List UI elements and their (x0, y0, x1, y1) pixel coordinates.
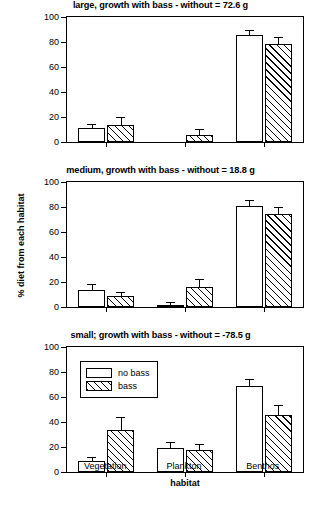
bar-plankton-bass (186, 135, 213, 143)
x-axis-tick (264, 307, 265, 312)
legend-label-bass: bass (118, 382, 137, 391)
bar-group-plankton (146, 182, 225, 307)
bars-large (67, 17, 303, 142)
y-axis-tick-label: 20 (29, 443, 59, 452)
error-bar (170, 443, 171, 448)
y-axis-tick (61, 142, 67, 143)
x-axis-title: habitat (66, 478, 304, 488)
x-axis-tick (106, 472, 107, 477)
x-axis-tick (185, 307, 186, 312)
x-axis-label-vegetation: Vegetation (60, 461, 150, 471)
error-bar-cap (245, 379, 254, 380)
error-bar (92, 125, 93, 129)
chart-panel-small: small; growth with bass - without = -78.… (0, 330, 321, 500)
y-axis-tick (61, 282, 67, 283)
x-axis-tick (185, 142, 186, 147)
chart-panel-large: large, growth with bass - without = 72.6… (0, 0, 321, 170)
y-axis-tick (61, 42, 67, 43)
y-axis-tick (61, 17, 67, 18)
error-bar (121, 293, 122, 296)
plot-area-small: no bass bass 020406080100 (66, 346, 304, 473)
figure-diet-composition: large, growth with bass - without = 72.6… (0, 0, 321, 511)
bar-group-vegetation (67, 17, 146, 142)
y-axis-tick-label: 80 (29, 368, 59, 377)
y-axis-tick (61, 182, 67, 183)
y-axis-tick-label: 100 (29, 13, 59, 22)
error-bar-cap (274, 207, 283, 208)
y-axis-tick-label: 0 (29, 468, 59, 477)
plot-area-medium: % diet from each habitat 020406080100 (66, 181, 304, 308)
bars-medium (67, 182, 303, 307)
error-bar-cap (116, 292, 125, 293)
x-axis-tick (106, 307, 107, 312)
y-axis-tick (61, 67, 67, 68)
error-bar (249, 380, 250, 386)
error-bar-cap (116, 417, 125, 418)
x-axis-tick (264, 142, 265, 147)
error-bar-cap (166, 442, 175, 443)
x-axis-label-benthos: Benthos (218, 461, 308, 471)
error-bar-cap (195, 279, 204, 280)
error-bar-cap (87, 124, 96, 125)
error-bar-cap (195, 129, 204, 130)
y-axis-tick (61, 472, 67, 473)
bar-vegetation-bass (107, 125, 134, 143)
panel-title-medium: medium, growth with bass - without = 18.… (0, 165, 321, 175)
legend-label-no-bass: no bass (118, 369, 150, 378)
y-axis-tick (61, 207, 67, 208)
bar-group-benthos (224, 17, 303, 142)
error-bar-cap (116, 117, 125, 118)
bar-benthos-no-bass (236, 386, 263, 472)
bar-group-benthos (224, 347, 303, 472)
error-bar-cap (166, 302, 175, 303)
error-bar (121, 418, 122, 429)
error-bar (249, 201, 250, 206)
error-bar-cap (245, 200, 254, 201)
y-axis-tick-label: 0 (29, 138, 59, 147)
y-axis-tick (61, 397, 67, 398)
y-axis-tick-label: 80 (29, 203, 59, 212)
chart-panel-medium: medium, growth with bass - without = 18.… (0, 165, 321, 335)
y-axis-tick (61, 422, 67, 423)
legend-item-no-bass: no bass (86, 367, 150, 379)
y-axis-tick (61, 257, 67, 258)
y-axis-tick-label: 20 (29, 278, 59, 287)
bar-benthos-no-bass (236, 206, 263, 307)
bar-plankton-no-bass (157, 305, 184, 308)
plot-area-large: 020406080100 (66, 16, 304, 143)
error-bar-cap (195, 444, 204, 445)
error-bar (278, 406, 279, 415)
error-bar-cap (245, 30, 254, 31)
bar-vegetation-bass (107, 296, 134, 307)
error-bar (199, 280, 200, 288)
error-bar (249, 31, 250, 34)
bar-group-benthos (224, 182, 303, 307)
y-axis-tick-label: 60 (29, 63, 59, 72)
x-axis-tick (264, 472, 265, 477)
bar-benthos-bass (265, 44, 292, 142)
y-axis-tick (61, 307, 67, 308)
y-axis-tick-label: 40 (29, 88, 59, 97)
bar-vegetation-no-bass (78, 290, 105, 308)
panel-title-large: large, growth with bass - without = 72.6… (0, 0, 321, 10)
error-bar (199, 445, 200, 451)
y-axis-tick (61, 117, 67, 118)
legend-item-bass: bass (86, 380, 150, 392)
y-axis-tick (61, 92, 67, 93)
error-bar-cap (274, 37, 283, 38)
y-axis-tick (61, 232, 67, 233)
y-axis-tick-label: 100 (29, 343, 59, 352)
y-axis-title: % diet from each habitat (16, 182, 28, 309)
y-axis-tick (61, 447, 67, 448)
bar-group-vegetation (67, 182, 146, 307)
y-axis-tick-label: 0 (29, 303, 59, 312)
bar-group-plankton (146, 17, 225, 142)
x-axis-tick (185, 472, 186, 477)
panel-title-small: small; growth with bass - without = -78.… (0, 330, 321, 340)
legend-swatch-open (86, 368, 112, 378)
error-bar (121, 118, 122, 124)
y-axis-tick (61, 372, 67, 373)
error-bar (278, 208, 279, 214)
error-bar (278, 38, 279, 44)
bar-plankton-bass (186, 287, 213, 307)
